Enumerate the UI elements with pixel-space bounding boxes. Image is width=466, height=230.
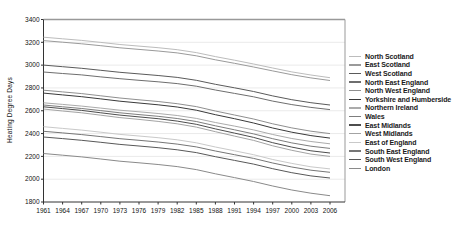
legend-label: North West England	[365, 87, 430, 94]
legend-swatch-line	[349, 133, 361, 134]
y-tick-label: 3000	[25, 61, 40, 68]
x-tick-label: 1982	[170, 207, 185, 214]
y-tick-label: 1800	[25, 198, 40, 205]
x-tick-label: 1976	[132, 207, 147, 214]
legend-item: North West England	[349, 86, 465, 95]
legend-item: East of England	[349, 138, 465, 147]
legend-item: North East England	[349, 78, 465, 87]
legend-swatch-line	[349, 159, 361, 160]
y-tick-label: 3400	[25, 16, 40, 23]
legend-item: West Scotland	[349, 69, 465, 78]
series-line	[44, 154, 331, 196]
legend-swatch-line	[349, 90, 361, 91]
x-tick-label: 1967	[74, 207, 89, 214]
x-tick-label: 1994	[246, 207, 261, 214]
legend-swatch-line	[349, 124, 361, 125]
y-tick-label: 2000	[25, 175, 40, 182]
legend-swatch-line	[349, 150, 361, 151]
series-line	[44, 41, 331, 81]
x-tick-label: 1964	[55, 207, 70, 214]
legend-label: North East England	[365, 79, 428, 86]
legend: North ScotlandEast ScotlandWest Scotland…	[349, 52, 465, 173]
series-line	[44, 127, 331, 169]
x-tick-label: 1997	[265, 207, 280, 214]
legend-swatch-line	[349, 168, 361, 169]
y-tick-label: 2400	[25, 130, 40, 137]
legend-item: London	[349, 164, 465, 173]
y-tick-label: 3200	[25, 39, 40, 46]
x-tick-label: 2006	[323, 207, 338, 214]
series-line	[44, 37, 331, 77]
legend-label: Northern Ireland	[365, 104, 418, 111]
legend-item: Yorkshire and Humberside	[349, 95, 465, 104]
legend-label: West Midlands	[365, 130, 413, 137]
x-tick-label: 1979	[151, 207, 166, 214]
legend-swatch-line	[349, 64, 361, 65]
legend-item: South East England	[349, 147, 465, 156]
legend-item: West Midlands	[349, 129, 465, 138]
legend-label: East of England	[365, 139, 416, 146]
x-tick-label: 1988	[208, 207, 223, 214]
legend-swatch-line	[349, 99, 361, 100]
legend-label: East Midlands	[365, 122, 411, 129]
x-tick-label: 1961	[36, 207, 51, 214]
x-tick-label: 1970	[94, 207, 109, 214]
legend-item: Northern Ireland	[349, 104, 465, 113]
legend-swatch-line	[349, 107, 361, 108]
legend-item: Wales	[349, 112, 465, 121]
series-line	[44, 109, 331, 156]
legend-swatch-line	[349, 56, 361, 57]
y-tick-label: 2800	[25, 84, 40, 91]
series-line	[44, 72, 331, 110]
legend-label: South West England	[365, 156, 431, 163]
legend-item: South West England	[349, 155, 465, 164]
x-tick-label: 2003	[304, 207, 319, 214]
legend-swatch-line	[349, 73, 361, 74]
x-tick-label: 2000	[285, 207, 300, 214]
legend-label: East Scotland	[365, 61, 410, 68]
series-line	[44, 93, 331, 138]
legend-swatch-line	[349, 142, 361, 143]
legend-label: South East England	[365, 148, 429, 155]
x-tick-label: 1985	[189, 207, 204, 214]
legend-item: East Scotland	[349, 61, 465, 70]
x-tick-label: 1973	[113, 207, 128, 214]
legend-label: London	[365, 165, 390, 172]
y-tick-label: 2200	[25, 153, 40, 160]
y-axis-title: Heating Degree Days	[6, 77, 13, 143]
legend-label: Yorkshire and Humberside	[365, 96, 451, 103]
legend-label: West Scotland	[365, 70, 412, 77]
legend-swatch-line	[349, 116, 361, 117]
legend-item: North Scotland	[349, 52, 465, 61]
legend-label: Wales	[365, 113, 384, 120]
x-tick-label: 1991	[227, 207, 242, 214]
legend-item: East Midlands	[349, 121, 465, 130]
legend-label: North Scotland	[365, 53, 414, 60]
y-tick-label: 2600	[25, 107, 40, 114]
series-line	[44, 90, 331, 133]
legend-swatch-line	[349, 81, 361, 82]
heating-degree-days-chart: 1800200022002400260028003000320034001961…	[0, 0, 466, 230]
